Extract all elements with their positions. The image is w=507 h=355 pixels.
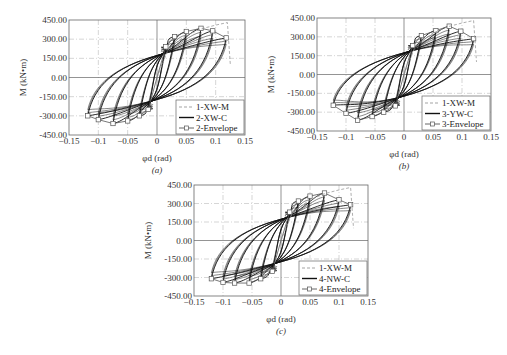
hysteresis-figure: 450.00300.00150.000.00-150.00-300.00-450… [0,0,507,355]
x-tick-label: −0.15 [59,136,80,146]
envelope-marker [393,104,397,108]
legend: 1-XW-M2-XW-C2-Envelope [176,100,244,134]
y-tick-label: 0.00 [176,236,192,246]
envelope-marker [331,103,335,107]
envelope-marker [172,34,176,38]
legend: 1-XW-M3-YW-C3-Envelope [422,96,490,130]
envelope-marker [288,210,292,214]
x-tick-label: 0.15 [360,297,376,307]
legend-label: 2-Envelope [196,123,237,133]
envelope-marker [259,277,263,281]
envelope-marker [308,194,312,198]
y-tick-label: 450.00 [167,180,192,190]
x-tick-label: −0.15 [184,297,205,307]
x-tick-label: −0.1 [338,132,354,142]
y-tick-label: 0.00 [51,73,67,83]
y-tick-label: 450.00 [42,15,67,25]
x-tick-label: −0.1 [215,297,231,307]
x-tick-label: −0.1 [90,136,106,146]
envelope-marker [247,281,251,285]
y-tick-label: -300.00 [164,273,192,283]
envelope-marker [296,199,300,203]
chart-panel-a: 450.00300.00150.000.00-150.00-300.00-450… [18,15,253,175]
y-axis-label: M (kN•m) [18,59,28,96]
x-tick-label: −0.15 [307,132,328,142]
x-axis-label: φd (rad) [389,149,418,159]
x-tick-label: −0.05 [117,136,138,146]
x-tick-label: 0.05 [425,132,441,142]
y-tick-label: 450.00 [290,13,315,23]
legend-label: 1-XW-M [442,98,475,108]
y-tick-label: -300.00 [39,111,67,121]
y-axis-label: M (kN•m) [143,222,153,259]
legend-marker [185,126,189,130]
x-axis-label: φd (rad) [266,314,295,324]
legend-label: 1-XW-M [196,102,229,112]
envelope-marker [344,111,348,115]
y-tick-label: 300.00 [42,34,67,44]
y-tick-label: -150.00 [39,92,67,102]
envelope-marker [232,281,236,285]
x-tick-label: 0.1 [456,132,467,142]
legend-label: 1-XW-M [319,263,352,273]
envelope-marker [370,114,374,118]
y-tick-label: 300.00 [290,32,315,42]
envelope-marker [459,29,463,33]
panel-caption: (c) [276,326,286,336]
envelope-marker [209,277,213,281]
legend-marker [431,122,435,126]
y-tick-label: 0.00 [299,70,315,80]
legend-label: 3-Envelope [442,119,483,129]
y-tick-label: 300.00 [167,199,192,209]
envelope-marker [382,110,386,114]
envelope-marker [125,119,129,123]
x-tick-label: 0.05 [302,297,318,307]
envelope-marker [96,117,100,121]
x-tick-label: 0 [279,297,284,307]
envelope-marker [221,280,225,284]
y-tick-label: -300.00 [287,107,315,117]
y-tick-label: -150.00 [287,88,315,98]
y-tick-label: -150.00 [164,254,192,264]
envelope-marker [164,45,168,49]
envelope-marker [411,43,415,47]
chart-panel-b: 450.00300.00150.000.00-150.00-300.00-450… [266,13,499,171]
envelope-marker [86,114,90,118]
legend-marker [308,287,312,291]
hysteresis-loop [261,207,299,272]
envelope-marker [270,269,274,273]
envelope-marker [146,107,150,111]
legend-label: 4-NW-C [319,274,350,284]
legend-label: 4-Envelope [319,284,360,294]
envelope-marker [184,29,188,33]
envelope-marker [111,121,115,125]
x-axis-label: φd (rad) [142,153,171,163]
panel-caption: (a) [152,165,163,175]
envelope-marker [137,114,141,118]
legend: 1-XW-M4-NW-C4-Envelope [299,261,367,295]
envelope-marker [211,29,215,33]
envelope-marker [419,33,423,37]
x-tick-label: 0 [155,136,160,146]
chart-panel-c: 450.00300.00150.000.00-150.00-300.00-450… [143,180,376,336]
panel-caption: (b) [399,161,410,171]
y-tick-label: 150.00 [167,217,192,227]
x-tick-label: 0.1 [210,136,221,146]
envelope-marker [337,198,341,202]
y-tick-label: 150.00 [42,53,67,63]
x-tick-label: 0.15 [483,132,499,142]
x-tick-label: 0.15 [237,136,253,146]
y-axis-label: M (kN•m) [266,56,276,93]
x-tick-label: −0.05 [365,132,386,142]
y-tick-label: 150.00 [290,51,315,61]
x-tick-label: 0.05 [178,136,194,146]
x-tick-label: 0.1 [333,297,344,307]
x-tick-label: −0.05 [242,297,263,307]
legend-label: 2-XW-C [196,113,227,123]
legend-label: 3-YW-C [442,109,473,119]
envelope-marker [224,36,228,40]
hysteresis-loop [333,42,473,103]
x-tick-label: 0 [402,132,407,142]
envelope-marker [355,118,359,122]
